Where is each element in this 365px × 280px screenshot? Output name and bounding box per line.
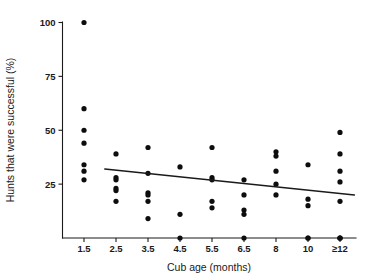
- x-tick-label: 6.5: [237, 243, 251, 254]
- data-point: [273, 154, 278, 159]
- data-point: [305, 203, 310, 208]
- data-point: [81, 177, 86, 182]
- data-point: [209, 145, 214, 150]
- data-point: [145, 216, 150, 221]
- data-point: [305, 162, 310, 167]
- data-point: [81, 169, 86, 174]
- data-point: [337, 169, 342, 174]
- y-axis-title: Hunts that were successful (%): [4, 58, 16, 203]
- data-point: [241, 212, 246, 217]
- data-point: [241, 192, 246, 197]
- x-tick-label: 1.5: [77, 243, 91, 254]
- data-point: [113, 199, 118, 204]
- data-point: [177, 164, 182, 169]
- x-axis-tick-labels: 1.52.53.54.55.56.5810≥12: [77, 243, 348, 254]
- data-point: [337, 130, 342, 135]
- data-point: [337, 151, 342, 156]
- data-point: [145, 145, 150, 150]
- data-point: [113, 177, 118, 182]
- x-tick-label: 2.5: [109, 243, 123, 254]
- x-tick-label: 5.5: [205, 243, 219, 254]
- data-point: [209, 199, 214, 204]
- data-point: [241, 235, 246, 240]
- data-point: [209, 205, 214, 210]
- y-tick-label: 75: [45, 71, 56, 82]
- x-tick-label: 4.5: [173, 243, 187, 254]
- y-tick-label: 50: [45, 125, 56, 136]
- x-tick-label: 3.5: [141, 243, 155, 254]
- y-tick-label: 25: [45, 179, 56, 190]
- data-point: [113, 188, 118, 193]
- data-point: [81, 141, 86, 146]
- data-point: [305, 197, 310, 202]
- data-point: [145, 192, 150, 197]
- data-point: [81, 128, 86, 133]
- data-point: [337, 199, 342, 204]
- data-point: [177, 212, 182, 217]
- data-point: [145, 199, 150, 204]
- data-point: [241, 177, 246, 182]
- data-point: [273, 192, 278, 197]
- data-point: [81, 20, 86, 25]
- chart-figure: 255075100 1.52.53.54.55.56.5810≥12 Cub a…: [0, 0, 365, 280]
- data-point: [81, 106, 86, 111]
- data-point: [273, 169, 278, 174]
- y-tick-label: 100: [40, 17, 56, 28]
- x-tick-label: ≥12: [332, 243, 348, 254]
- data-point: [337, 179, 342, 184]
- x-axis-title: Cub age (months): [167, 261, 251, 273]
- scatter-plot: 255075100 1.52.53.54.55.56.5810≥12 Cub a…: [0, 0, 365, 280]
- data-point: [337, 235, 342, 240]
- x-tick-label: 10: [303, 243, 314, 254]
- data-point: [177, 235, 182, 240]
- data-point: [305, 235, 310, 240]
- data-point: [113, 151, 118, 156]
- data-point: [81, 162, 86, 167]
- x-tick-label: 8: [273, 243, 278, 254]
